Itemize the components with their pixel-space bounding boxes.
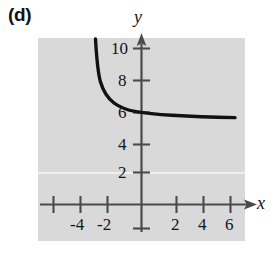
figure-container: (d) xyxy=(0,0,271,253)
y-tick-label-2: 2 xyxy=(118,164,127,181)
y-tick-label-10: 10 xyxy=(111,40,128,57)
x-axis-label: x xyxy=(257,194,265,212)
y-tick-label-8: 8 xyxy=(118,72,127,89)
x-axis xyxy=(40,200,257,210)
y-axis-label: y xyxy=(134,8,142,26)
y-tick-label-6: 6 xyxy=(118,104,127,121)
x-tick-label-neg4: -4 xyxy=(70,216,84,233)
x-tick-label-2: 2 xyxy=(171,216,180,233)
x-tick-label-neg2: -2 xyxy=(97,216,111,233)
x-tick-label-4: 4 xyxy=(198,216,207,233)
x-tick-label-6: 6 xyxy=(225,216,234,233)
y-axis xyxy=(137,33,147,232)
y-tick-label-4: 4 xyxy=(118,136,127,153)
